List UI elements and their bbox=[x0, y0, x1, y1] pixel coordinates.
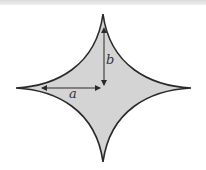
label-b: b bbox=[106, 52, 114, 67]
label-a: a bbox=[69, 86, 77, 101]
astroid-diagram: b a bbox=[0, 0, 206, 170]
